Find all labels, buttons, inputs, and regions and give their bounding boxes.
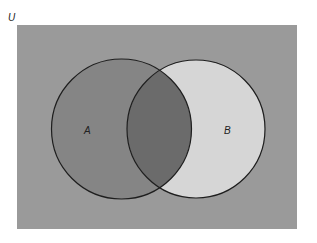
venn-diagram: U A B bbox=[0, 0, 317, 243]
universe-label: U bbox=[8, 12, 16, 23]
set-b-label: B bbox=[224, 125, 231, 136]
set-a-label: A bbox=[83, 125, 91, 136]
